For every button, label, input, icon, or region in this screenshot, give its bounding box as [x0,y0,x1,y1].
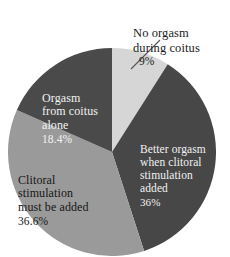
slice-label-clitoral-stimulation-text: Clitoral stimulation must be added [18,173,89,214]
slice-label-no-orgasm-percent: 9% [139,55,229,68]
slice-label-no-orgasm: No orgasm during coitus 9% [133,12,229,82]
slice-label-coitus-alone-text: Orgasm from coitus alone [42,91,98,132]
slice-label-better-orgasm-percent: 36% [140,196,216,209]
slice-label-no-orgasm-text: No orgasm during coitus [133,26,200,54]
slice-label-coitus-alone: Orgasm from coitus alone 18.4% [42,78,124,159]
pie-chart-figure: No orgasm during coitus 9% Better orgasm… [0,0,230,257]
slice-label-coitus-alone-percent: 18.4% [42,133,124,146]
slice-label-clitoral-stimulation-percent: 36.6% [18,215,122,228]
slice-label-better-orgasm-text: Better orgasm when clitoral stimulation … [140,143,206,194]
slice-label-better-orgasm: Better orgasm when clitoral stimulation … [140,130,216,221]
slice-label-clitoral-stimulation: Clitoral stimulation must be added 36.6% [18,160,122,241]
